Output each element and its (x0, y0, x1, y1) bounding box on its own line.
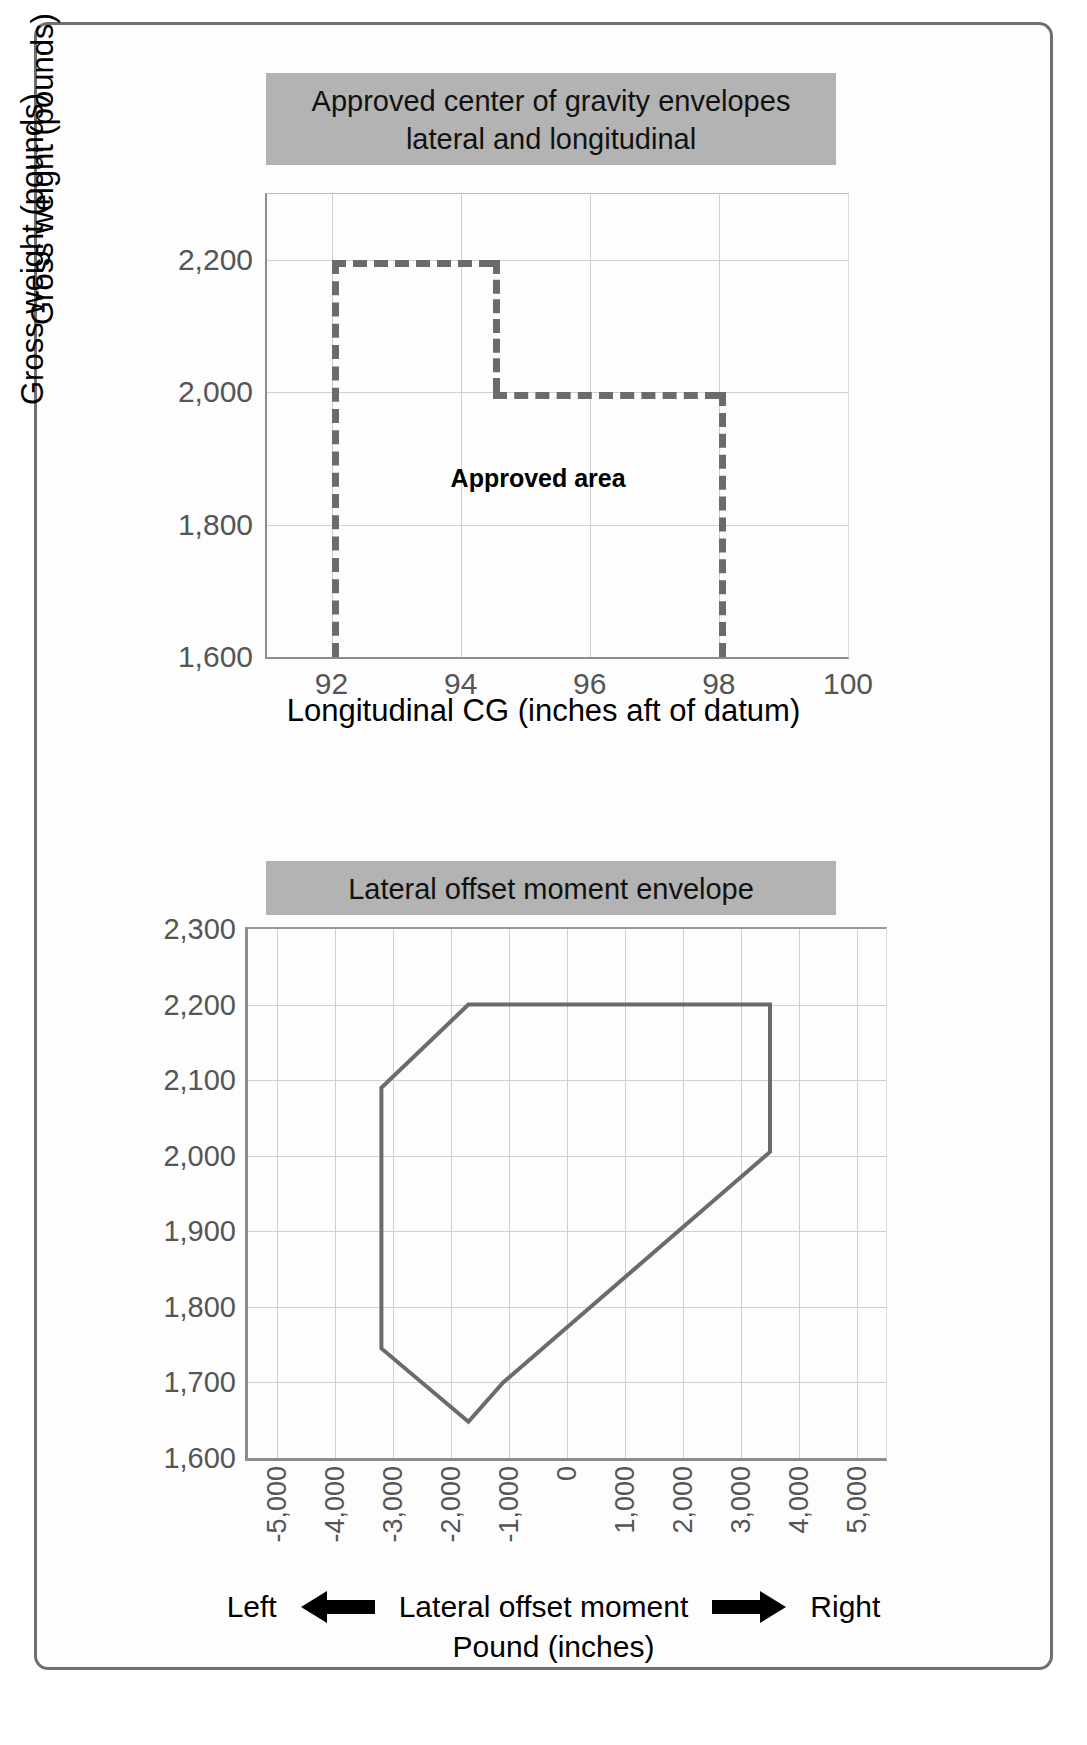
envelope-boundary-segment (493, 392, 719, 399)
chart1-title-line1: Approved center of gravity envelopes (266, 82, 836, 120)
chart1-title-line2: lateral and longitudinal (266, 120, 836, 158)
chart2-title-text: Lateral offset moment envelope (266, 870, 836, 908)
gridline-horizontal (267, 525, 848, 526)
y-axis-tick-label: 1,600 (178, 640, 253, 674)
chart2-x-axis-units: Pound (inches) (453, 1630, 655, 1664)
chart2-x-axis-label-row1: Left Lateral offset moment Right (97, 1590, 1010, 1624)
y-axis-tick-label: 1,800 (178, 508, 253, 542)
right-arrow-icon (712, 1590, 786, 1624)
chart2-plot-area: -5,000-4,000-3,000-2,000-1,00001,0002,00… (245, 927, 887, 1461)
y-axis-tick-label: 1,900 (163, 1215, 236, 1248)
y-axis-tick-label: 2,100 (163, 1064, 236, 1097)
figure-frame: Approved center of gravity envelopes lat… (34, 22, 1053, 1670)
x-axis-tick-label: -4,000 (320, 1466, 351, 1543)
envelope-boundary-segment (719, 392, 726, 657)
x-axis-tick-label: -3,000 (378, 1466, 409, 1543)
x-axis-tick-label: 2,000 (668, 1466, 699, 1534)
chart1-x-axis-label: Longitudinal CG (inches aft of datum) (37, 693, 1050, 729)
y-axis-tick-label: 2,300 (163, 913, 236, 946)
envelope-polygon (248, 929, 886, 1458)
y-axis-tick-label: 1,600 (163, 1442, 236, 1475)
left-arrow-icon (301, 1590, 375, 1624)
x-axis-tick-label: 3,000 (726, 1466, 757, 1534)
chart2-y-axis-label: Gross weight (pounds) (15, 93, 51, 405)
x-axis-tick-label: 1,000 (610, 1466, 641, 1534)
x-axis-tick-label: -2,000 (436, 1466, 467, 1543)
x-axis-tick-label: -1,000 (494, 1466, 525, 1543)
direction-label-right: Right (810, 1590, 880, 1624)
chart2-x-axis-label-main: Lateral offset moment (399, 1590, 689, 1624)
x-axis-tick-label: 5,000 (842, 1466, 873, 1534)
approved-area-annotation: Approved area (451, 464, 626, 493)
y-axis-tick-label: 2,200 (163, 988, 236, 1021)
chart2-title-banner: Lateral offset moment envelope (266, 861, 836, 915)
chart1-plot-area: 929496981001,6001,8002,0002,200Approved … (265, 193, 849, 659)
direction-label-left: Left (227, 1590, 277, 1624)
gridline-vertical (590, 194, 591, 657)
y-axis-tick-label: 2,200 (178, 243, 253, 277)
y-axis-tick-label: 1,800 (163, 1290, 236, 1323)
y-axis-tick-label: 1,700 (163, 1366, 236, 1399)
chart2-x-axis-label-row2: Pound (inches) (97, 1630, 1010, 1664)
chart1-title-banner: Approved center of gravity envelopes lat… (266, 73, 836, 165)
x-axis-tick-label: 0 (552, 1466, 583, 1481)
envelope-boundary-segment (332, 260, 493, 267)
x-axis-tick-label: -5,000 (262, 1466, 293, 1543)
y-axis-tick-label: 2,000 (178, 375, 253, 409)
envelope-boundary-segment (493, 260, 500, 392)
y-axis-tick-label: 2,000 (163, 1139, 236, 1172)
chart2-x-axis-label-group: Left Lateral offset moment Right Pound (… (97, 1590, 1010, 1664)
x-axis-tick-label: 4,000 (784, 1466, 815, 1534)
envelope-boundary-segment (332, 260, 339, 657)
